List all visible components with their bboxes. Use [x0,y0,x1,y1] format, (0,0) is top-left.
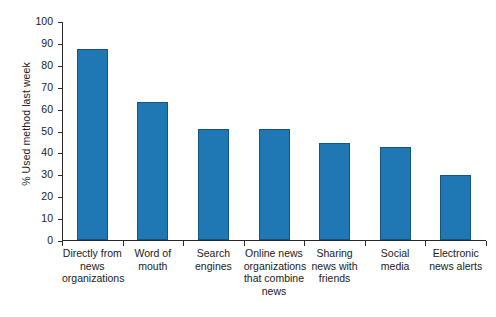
x-axis-label-line: Online news [244,247,305,260]
x-axis-label: Socialmedia [365,247,426,272]
x-axis-label-line: Word of [123,247,184,260]
y-tick-mark [58,110,62,111]
x-axis-label-line: organizations [244,260,305,273]
y-tick-mark [58,219,62,220]
y-tick-mark [58,175,62,176]
x-axis-labels: Directly fromnewsorganizationsWord ofmou… [62,247,486,309]
bar-chart: % Used method last week 0102030405060708… [0,0,496,317]
y-tick-label: 80 [23,59,53,71]
x-axis-label-line: friends [304,272,365,285]
y-tick-mark [58,66,62,67]
x-tick-mark [365,241,366,246]
y-tick-label: 70 [23,81,53,93]
y-tick-mark [58,88,62,89]
x-axis-label-line: engines [183,260,244,273]
x-axis-label: Word ofmouth [123,247,184,272]
x-axis-label-line: media [365,260,426,273]
y-axis-line [62,22,63,241]
y-tick-label: 40 [23,146,53,158]
y-tick-mark [58,153,62,154]
x-axis-label-line: Sharing [304,247,365,260]
y-tick-mark [58,22,62,23]
x-axis-label: Online newsorganizationsthat combinenews [244,247,305,297]
x-axis-label-line: news with [304,260,365,273]
x-axis-label: Directly fromnewsorganizations [62,247,123,285]
x-axis-label-line: news [244,285,305,298]
x-axis-label: Searchengines [183,247,244,272]
y-tick-label: 50 [23,125,53,137]
y-tick-label: 100 [23,15,53,27]
bar [259,129,290,240]
x-axis-label-line: that combine [244,272,305,285]
x-axis-line [62,240,486,241]
bar [198,129,229,240]
x-tick-mark [425,241,426,246]
y-tick-label: 10 [23,212,53,224]
x-tick-mark [123,241,124,246]
x-tick-mark [486,241,487,246]
y-tick-label: 20 [23,190,53,202]
y-tick-label: 0 [23,234,53,246]
x-axis-label-line: Electronic [425,247,486,260]
y-tick-label: 60 [23,103,53,115]
plot-area: 0102030405060708090100 [62,22,486,241]
x-tick-mark [183,241,184,246]
x-tick-mark [244,241,245,246]
bar [137,102,168,240]
x-axis-label: Sharingnews withfriends [304,247,365,285]
y-tick-mark [58,44,62,45]
x-tick-mark [304,241,305,246]
bar [440,175,471,240]
x-axis-label: Electronicnews alerts [425,247,486,272]
x-axis-label-line: organizations [62,272,123,285]
y-tick-mark [58,197,62,198]
x-axis-label-line: Social [365,247,426,260]
y-tick-label: 30 [23,168,53,180]
x-axis-label-line: news alerts [425,260,486,273]
x-axis-label-line: Search [183,247,244,260]
bar [77,49,108,240]
x-axis-label-line: mouth [123,260,184,273]
x-axis-label-line: news [62,260,123,273]
bar [380,147,411,240]
bar [319,143,350,240]
y-tick-mark [58,132,62,133]
x-tick-mark [62,241,63,246]
y-tick-label: 90 [23,37,53,49]
x-axis-label-line: Directly from [62,247,123,260]
